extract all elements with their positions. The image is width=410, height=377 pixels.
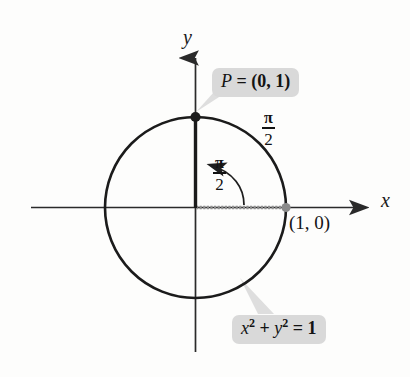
- point-p-marker: [190, 112, 200, 122]
- x-intercept-coordinate-label: (1, 0): [289, 212, 330, 234]
- arc-angle-numerator: π: [262, 110, 275, 127]
- arc-angle-denominator: 2: [262, 130, 275, 148]
- point-one-zero-marker: [281, 203, 290, 212]
- callout-point-variable: P: [221, 71, 232, 91]
- figure-canvas: y x P = (0, 1) x2 + y2 = 1 π 2 π 2 (1, 0…: [0, 0, 410, 377]
- arc-angle-fraction-bar: [262, 127, 275, 129]
- sweep-angle-denominator: 2: [213, 175, 226, 193]
- arc-angle-label: π 2: [262, 110, 275, 148]
- callout-point-value: (0, 1): [251, 71, 290, 91]
- equation-x: x: [241, 318, 249, 338]
- sweep-angle-fraction-bar: [213, 172, 226, 174]
- sweep-angle-label: π 2: [213, 155, 226, 193]
- equation-rhs: 1: [308, 318, 317, 338]
- x-axis-label: x: [381, 189, 390, 212]
- callout-point-label: P = (0, 1): [212, 68, 299, 97]
- callout-equation-label: x2 + y2 = 1: [232, 315, 326, 344]
- callout-point-equals: =: [232, 71, 251, 91]
- sweep-angle-numerator: π: [213, 155, 226, 172]
- equation-plus: +: [255, 318, 274, 338]
- y-axis-label: y: [183, 26, 192, 49]
- diagram-svg: [0, 0, 410, 377]
- equation-equals: =: [288, 318, 307, 338]
